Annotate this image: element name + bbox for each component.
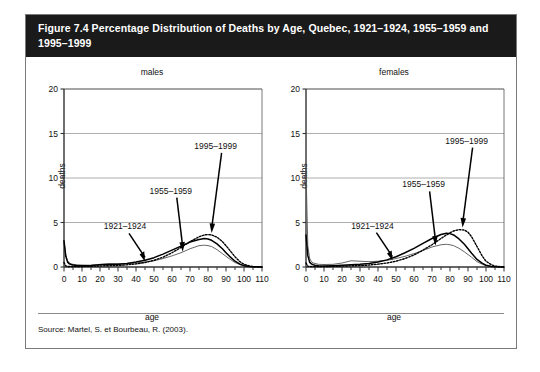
svg-text:15: 15	[49, 129, 59, 139]
plot-females: 0510152001020304050607080901001101921–19…	[276, 81, 512, 309]
figure-screenshot: Figure 7.4 Percentage Distribution of De…	[0, 0, 540, 372]
svg-text:0: 0	[62, 274, 67, 284]
svg-text:40: 40	[131, 274, 141, 284]
annotation-label: 1955–1959	[150, 186, 193, 196]
chart-panel-females: females deaths age 051015200102030405060…	[276, 67, 512, 322]
svg-text:50: 50	[391, 274, 401, 284]
svg-text:10: 10	[49, 173, 59, 183]
annotation-label: 1921–1924	[351, 221, 394, 231]
svg-text:90: 90	[221, 274, 231, 284]
svg-text:100: 100	[237, 274, 251, 284]
svg-text:20: 20	[49, 84, 59, 94]
svg-text:20: 20	[95, 274, 105, 284]
chart-title-females: females	[276, 67, 512, 77]
annotation-label: 1995–1999	[194, 141, 237, 151]
annotation-label: 1921–1924	[104, 221, 147, 231]
svg-text:110: 110	[255, 274, 269, 284]
svg-text:90: 90	[463, 274, 473, 284]
annotation-label: 1955–1959	[402, 179, 445, 189]
svg-text:60: 60	[167, 274, 177, 284]
annotation-label: 1995–1999	[445, 136, 488, 146]
chart-title-males: males	[34, 67, 270, 77]
svg-text:70: 70	[185, 274, 195, 284]
figure-title: Figure 7.4 Percentage Distribution of De…	[38, 21, 504, 50]
svg-text:10: 10	[291, 173, 301, 183]
svg-text:20: 20	[337, 274, 347, 284]
svg-text:15: 15	[291, 129, 301, 139]
svg-text:10: 10	[77, 274, 87, 284]
svg-text:20: 20	[291, 84, 301, 94]
source-divider	[38, 313, 504, 314]
series-line	[306, 233, 504, 267]
svg-text:70: 70	[427, 274, 437, 284]
svg-text:30: 30	[355, 274, 365, 284]
svg-text:30: 30	[113, 274, 123, 284]
series-line	[306, 230, 504, 267]
svg-text:40: 40	[373, 274, 383, 284]
svg-text:60: 60	[409, 274, 419, 284]
svg-text:110: 110	[497, 274, 511, 284]
plot-males: 0510152001020304050607080901001101921–19…	[34, 81, 270, 309]
figure-title-bar: Figure 7.4 Percentage Distribution of De…	[26, 15, 516, 57]
svg-text:100: 100	[479, 274, 493, 284]
figure-frame: Figure 7.4 Percentage Distribution of De…	[25, 14, 517, 349]
svg-text:5: 5	[53, 218, 58, 228]
svg-text:50: 50	[149, 274, 159, 284]
svg-text:0: 0	[304, 274, 309, 284]
svg-text:5: 5	[295, 218, 300, 228]
svg-text:80: 80	[203, 274, 213, 284]
series-line	[64, 235, 262, 267]
source-note: Source: Martel, S. et Bourbeau, R. (2003…	[38, 325, 188, 334]
svg-text:80: 80	[445, 274, 455, 284]
svg-text:0: 0	[53, 262, 58, 272]
svg-text:10: 10	[319, 274, 329, 284]
chart-panel-males: males deaths age 05101520010203040506070…	[34, 67, 270, 322]
svg-text:0: 0	[295, 262, 300, 272]
